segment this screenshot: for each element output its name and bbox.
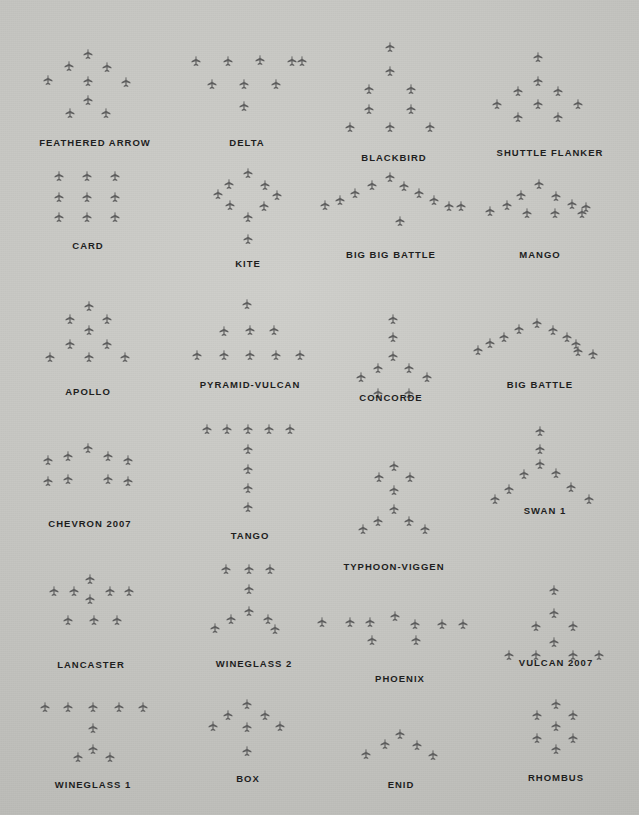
aircraft-icon [567,733,580,746]
aircraft-icon [550,699,563,712]
formation-chart-page: FEATHERED ARROWDELTABLACKBIRDSHUTTLE FLA… [0,0,639,815]
aircraft-icon [567,710,580,723]
aircraft-icon [531,710,544,723]
formation-label: RHOMBUS [528,772,584,783]
aircraft-icon [531,733,544,746]
aircraft-icon [550,744,563,757]
aircraft-icon [550,721,563,734]
formation-rhombus: RHOMBUS [0,0,639,815]
